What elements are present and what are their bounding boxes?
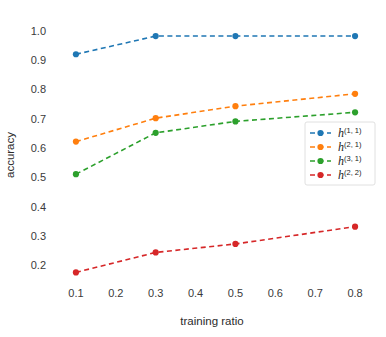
x-tick-label: 0.1 [68, 287, 83, 299]
y-tick-label: 1.0 [31, 25, 46, 37]
x-tick-label: 0.2 [108, 287, 123, 299]
data-point-marker [153, 115, 159, 121]
data-point-marker [352, 109, 358, 115]
x-tick-label: 0.8 [347, 287, 362, 299]
data-point-marker [232, 33, 238, 39]
x-tick-label: 0.3 [148, 287, 163, 299]
x-axis-title: training ratio [180, 315, 243, 327]
y-axis-tick-labels: 0.20.30.40.50.60.70.80.91.0 [31, 25, 46, 272]
x-tick-label: 0.6 [268, 287, 283, 299]
x-tick-label: 0.4 [188, 287, 203, 299]
legend-marker-swatch [317, 144, 323, 150]
chart-legend[interactable]: h(1, 1)h(2, 1)h(3, 1)h(2, 2) [305, 122, 375, 185]
data-point-marker [73, 139, 79, 145]
y-tick-label: 0.9 [31, 54, 46, 66]
x-tick-label: 0.5 [228, 287, 243, 299]
data-point-marker [153, 249, 159, 255]
data-point-marker [232, 118, 238, 124]
data-point-marker [232, 103, 238, 109]
legend-marker-swatch [317, 158, 323, 164]
data-point-marker [153, 33, 159, 39]
data-point-marker [153, 130, 159, 136]
data-point-marker [352, 33, 358, 39]
legend-marker-swatch [317, 130, 323, 136]
y-tick-label: 0.2 [31, 259, 46, 271]
chart-container: 0.10.20.30.40.50.60.70.8 0.20.30.40.50.6… [0, 0, 386, 337]
x-tick-label: 0.7 [308, 287, 323, 299]
y-tick-label: 0.6 [31, 142, 46, 154]
y-tick-label: 0.3 [31, 230, 46, 242]
y-tick-label: 0.7 [31, 113, 46, 125]
data-point-marker [352, 224, 358, 230]
y-tick-label: 0.4 [31, 201, 46, 213]
data-point-marker [73, 51, 79, 57]
accuracy-vs-training-ratio-chart: 0.10.20.30.40.50.60.70.8 0.20.30.40.50.6… [0, 0, 386, 337]
y-tick-label: 0.5 [31, 171, 46, 183]
data-point-marker [232, 241, 238, 247]
data-point-marker [352, 91, 358, 97]
y-axis-title: accuracy [4, 132, 16, 178]
legend-marker-swatch [317, 172, 323, 178]
data-point-marker [73, 269, 79, 275]
y-tick-label: 0.8 [31, 83, 46, 95]
data-point-marker [73, 171, 79, 177]
